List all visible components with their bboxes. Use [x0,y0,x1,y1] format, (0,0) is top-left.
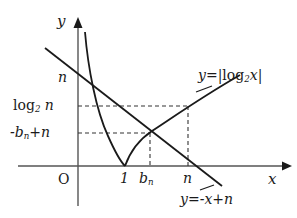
y-tick-log2n-tail: n [45,97,54,113]
abs-log-curve-left-branch [85,32,125,166]
math-figure: y x O n log2 n -bn+n 1 bn n y=|log2x| y=… [0,0,297,218]
y-tick-log2n: log2 n [13,98,54,112]
abs-log-label-eq: = [206,67,218,83]
y-tick-minus-bn-tail: +n [29,124,50,140]
x-tick-bn-head: b [139,170,148,186]
x-tick-bn: bn [139,171,154,185]
dashed-guides [78,106,188,166]
y-axis [74,17,83,206]
line-label-eq: = [188,191,200,207]
y-axis-label: y [57,14,65,29]
line-label-y: y [180,191,188,207]
y-tick-log2n-sub: 2 [35,104,41,114]
x-axis [18,162,292,171]
y-tick-minus-bn-sub: n [24,131,30,141]
x-axis-label: x [268,172,276,187]
abs-log-label-y: y [198,67,206,83]
line-label-body: -x+n [200,191,233,207]
abs-log-curve [85,32,240,166]
y-tick-log2n-head: log [13,97,35,113]
abs-log-label-tail: x| [250,67,263,83]
x-tick-1: 1 [120,171,129,185]
abs-log-label-sub: 2 [244,74,250,84]
abs-log-label-body: |log [218,67,245,83]
x-tick-n: n [183,171,192,185]
linear-curve-label: y=-x+n [180,192,233,206]
log-label-leader [196,86,212,92]
line-label-leader [200,185,214,190]
y-tick-n: n [58,70,67,84]
y-tick-minus-bn-plus-n: -bn+n [10,125,50,139]
origin-label: O [58,172,69,186]
x-tick-bn-sub: n [148,177,154,187]
y-tick-minus-bn-head: -b [10,124,24,140]
abs-log-curve-label: y=|log2x| [198,68,262,82]
abs-log-curve-right-branch [125,75,240,166]
